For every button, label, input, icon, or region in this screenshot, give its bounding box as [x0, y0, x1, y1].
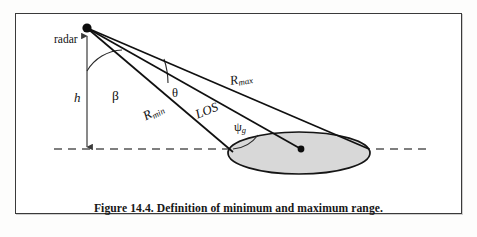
theta-angle-label: θ [172, 86, 178, 101]
height-label: h [74, 90, 81, 106]
radar-range-diagram [16, 14, 463, 215]
r-min-ray [87, 28, 233, 152]
figure-frame: radar h β θ Rmax Rmin LOS ψg Figure 14.4… [15, 13, 462, 214]
footprint-center-dot [298, 146, 305, 153]
ground-footprint-ellipse [228, 132, 370, 174]
radar-apex-dot [82, 23, 91, 32]
figure-caption: Figure 14.4. Definition of minimum and m… [16, 202, 461, 215]
figure-page: radar h β θ Rmax Rmin LOS ψg Figure 14.4… [0, 0, 477, 237]
psi-g-subscript: g [242, 125, 246, 135]
los-ray [87, 28, 301, 149]
r-max-ray [87, 28, 369, 149]
beta-angle-label: β [112, 88, 119, 104]
radar-label: radar [54, 33, 78, 45]
psi-g-base: ψ [234, 120, 242, 134]
psi-g-label: ψg [234, 120, 246, 135]
